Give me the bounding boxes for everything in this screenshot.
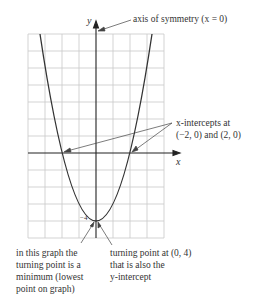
y-axis-label: y	[87, 15, 91, 26]
x-intercepts-label: x-intercepts at (−2, 0) and (2, 0)	[176, 117, 241, 141]
minimum-note: in this graph the turning point is a min…	[16, 247, 83, 295]
turning-point-note: turning point at (0, 4) that is also the…	[110, 247, 192, 283]
x-axis-label: x	[176, 156, 180, 167]
vertex-tick-label: −4	[80, 214, 87, 222]
axis-of-symmetry-label: axis of symmetry (x = 0)	[133, 13, 227, 25]
annotation-arrows	[64, 20, 172, 245]
axes	[28, 21, 180, 238]
